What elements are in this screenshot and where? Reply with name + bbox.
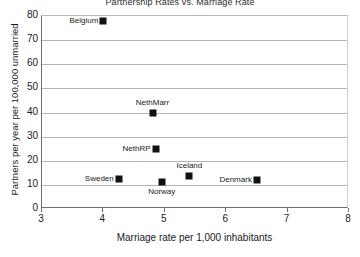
- x-tick-mark: [225, 208, 226, 212]
- y-tick-label: 70: [27, 34, 38, 44]
- x-tick-label: 3: [38, 214, 44, 224]
- y-axis-title: Partners per year per 100,000 unmarried: [9, 10, 20, 210]
- data-point-label: Belgium: [69, 17, 98, 25]
- x-tick-label: 7: [284, 214, 290, 224]
- data-point-label: Denmark: [219, 176, 251, 184]
- y-tick-label: 10: [27, 179, 38, 189]
- y-tick-label: 0: [32, 203, 38, 213]
- x-tick-label: 8: [345, 214, 351, 224]
- data-point: [100, 17, 107, 24]
- y-tick-label: 80: [27, 10, 38, 20]
- x-axis-tick-labels: 345678: [41, 208, 348, 230]
- x-tick-mark: [348, 208, 349, 212]
- y-tick-label: 20: [27, 155, 38, 165]
- x-tick-label: 4: [100, 214, 106, 224]
- data-point-label: Iceland: [176, 162, 202, 170]
- data-point-label: NethMarr: [136, 99, 169, 107]
- y-tick-label: 40: [27, 107, 38, 117]
- x-tick-label: 5: [161, 214, 167, 224]
- y-tick-label: 60: [27, 58, 38, 68]
- data-points-layer: BelgiumNethMarrNethRPSwedenNorwayIceland…: [42, 16, 347, 207]
- data-point-label: NethRP: [123, 145, 151, 153]
- x-tick-label: 6: [222, 214, 228, 224]
- data-point-label: Sweden: [85, 175, 114, 183]
- y-tick-label: 30: [27, 131, 38, 141]
- x-tick-mark: [164, 208, 165, 212]
- data-point-label: Norway: [148, 188, 175, 196]
- data-point: [186, 173, 193, 180]
- scatter-chart-figure: Partnership Rates vs. Marriage Rate 0102…: [0, 0, 360, 257]
- plot-area: BelgiumNethMarrNethRPSwedenNorwayIceland…: [41, 15, 348, 208]
- x-tick-mark: [41, 208, 42, 212]
- data-point: [115, 175, 122, 182]
- data-point: [149, 109, 156, 116]
- x-tick-mark: [102, 208, 103, 212]
- data-point: [158, 179, 165, 186]
- x-axis-title: Marriage rate per 1,000 inhabitants: [41, 232, 348, 243]
- chart-title: Partnership Rates vs. Marriage Rate: [0, 0, 360, 7]
- y-tick-label: 50: [27, 82, 38, 92]
- x-tick-mark: [287, 208, 288, 212]
- data-point: [152, 145, 159, 152]
- data-point: [253, 177, 260, 184]
